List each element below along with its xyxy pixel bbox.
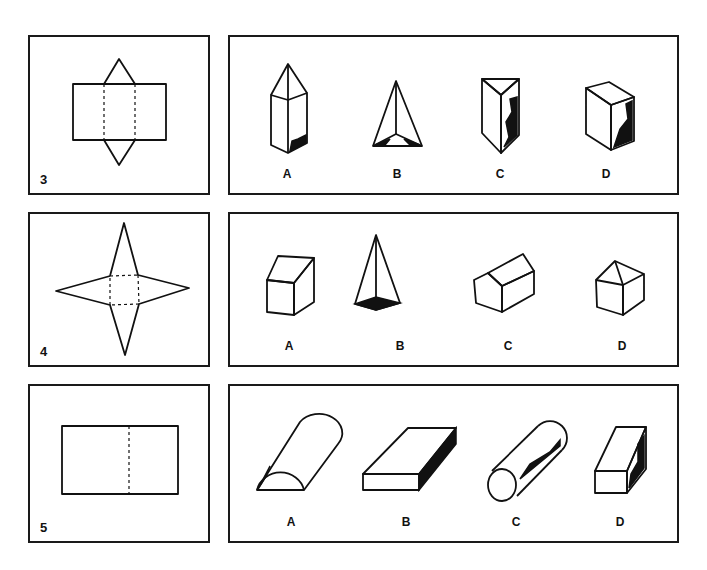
problem-number: 5 xyxy=(40,520,47,535)
problem-number: 4 xyxy=(40,344,47,359)
prism-net-diagram xyxy=(30,37,212,197)
pyramid-net-diagram xyxy=(30,214,212,369)
option-3b-shape[interactable] xyxy=(373,81,422,146)
option-label-b: B xyxy=(387,167,407,181)
option-label-c: C xyxy=(498,339,518,353)
option-3a-shape[interactable] xyxy=(271,64,307,153)
options-panel-5: A B C D xyxy=(228,384,679,543)
problem-number: 3 xyxy=(40,172,47,187)
option-4b-shape[interactable] xyxy=(355,235,400,310)
net-panel-5: 5 xyxy=(28,384,210,543)
option-5b-shape[interactable] xyxy=(363,428,456,490)
option-4a-shape[interactable] xyxy=(267,256,314,315)
options-panel-3: A B C D xyxy=(228,35,679,195)
option-4d-shape[interactable] xyxy=(596,261,644,315)
option-5c-shape[interactable] xyxy=(488,421,567,501)
options-panel-4: A B C D xyxy=(228,212,679,367)
option-3d-shape[interactable] xyxy=(586,82,634,150)
net-panel-3: 3 xyxy=(28,35,210,195)
option-label-a: A xyxy=(277,167,297,181)
option-label-d: D xyxy=(612,339,632,353)
option-label-b: B xyxy=(390,339,410,353)
option-4c-shape[interactable] xyxy=(474,254,534,312)
option-label-a: A xyxy=(281,515,301,529)
option-5a-shape[interactable] xyxy=(257,414,342,490)
option-label-d: D xyxy=(610,515,630,529)
option-label-d: D xyxy=(596,167,616,181)
option-label-c: C xyxy=(506,515,526,529)
option-5d-shape[interactable] xyxy=(595,427,646,493)
option-label-b: B xyxy=(396,515,416,529)
option-label-a: A xyxy=(279,339,299,353)
option-3c-shape[interactable] xyxy=(482,79,519,153)
option-label-c: C xyxy=(490,167,510,181)
net-panel-4: 4 xyxy=(28,212,210,367)
fold-net-diagram xyxy=(30,386,212,545)
